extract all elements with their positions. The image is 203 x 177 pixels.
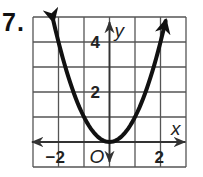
parabola-graph: −2224Oxy [0, 0, 203, 177]
x-axis-label: x [170, 118, 182, 139]
origin-label: O [90, 146, 105, 167]
x-tick-label: −2 [46, 148, 65, 167]
y-tick-label: 2 [91, 83, 100, 102]
y-axis-label: y [113, 20, 126, 41]
y-tick-label: 4 [91, 33, 101, 52]
x-tick-label: 2 [155, 148, 164, 167]
